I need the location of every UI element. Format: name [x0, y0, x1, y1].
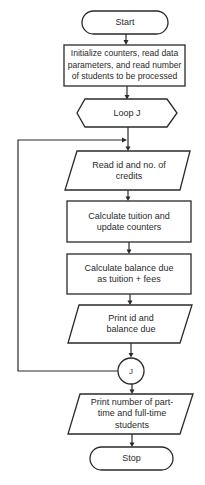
connector-text: J: [129, 366, 133, 377]
loop-label: Loop J: [77, 99, 177, 127]
loop-text: Loop J: [113, 108, 140, 119]
arrowhead-icon: [122, 138, 127, 143]
init-text-line-1: Initialize counters, read data: [71, 48, 179, 60]
read-text-line-2: credits: [116, 171, 143, 182]
init-text-line-3: of students to be processed: [72, 71, 178, 83]
print-counts-text-line-3: students: [115, 420, 149, 432]
calc-tuition-text-line-2: update counters: [97, 222, 162, 233]
read-text-line-1: Read id and no. of: [92, 160, 166, 171]
print-id-text-line-1: Print id and: [108, 313, 154, 324]
start-label: Start: [82, 11, 168, 34]
init-text-line-2: parameters, and read number: [68, 60, 182, 72]
connector-label: J: [118, 358, 144, 384]
print-counts-text-line-1: Print number of part-: [91, 397, 174, 409]
calc-tuition-label: Calculate tuition and update counters: [67, 201, 191, 242]
print-counts-text-line-2: time and full-time: [98, 408, 167, 420]
print-id-text-line-2: balance due: [106, 324, 155, 335]
calc-tuition-text-line-1: Calculate tuition and: [88, 211, 170, 222]
print-counts-label: Print number of part- time and full-time…: [74, 394, 190, 434]
calc-balance-text-line-1: Calculate balance due: [84, 263, 173, 274]
read-label: Read id and no. of credits: [72, 151, 186, 190]
print-id-label: Print id and balance due: [74, 305, 188, 343]
stop-label: Stop: [90, 447, 173, 470]
calc-balance-label: Calculate balance due as tuition + fees: [67, 254, 191, 294]
arrowhead-icon: [129, 353, 134, 358]
stop-text: Stop: [122, 453, 141, 464]
calc-balance-text-line-2: as tuition + fees: [97, 274, 160, 285]
start-text: Start: [115, 17, 134, 28]
init-label: Initialize counters, read data parameter…: [64, 45, 185, 86]
